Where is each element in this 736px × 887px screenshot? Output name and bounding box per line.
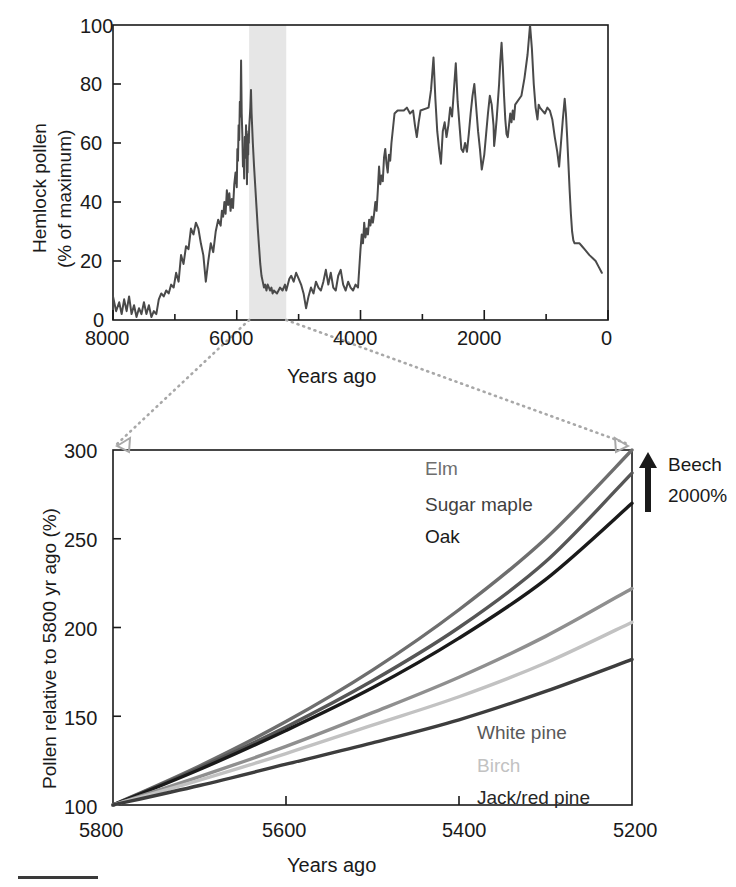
beech-annotation-value: 2000% — [668, 486, 727, 505]
series-label-jack-red-pine: Jack/red pine — [477, 788, 590, 807]
bottom-ytick-100: 100 — [64, 797, 97, 817]
series-line-oak — [113, 503, 632, 805]
top-xtick-0: 0 — [601, 328, 612, 348]
top-ytick-40: 40 — [80, 192, 102, 212]
series-label-birch: Birch — [477, 756, 520, 775]
pollen-figure: 100 80 60 40 20 0 8000 6000 4000 2000 0 … — [0, 0, 736, 887]
top-ytick-80: 80 — [80, 74, 102, 94]
bottom-xtick-5200: 5200 — [613, 820, 658, 840]
series-label-elm: Elm — [425, 459, 458, 478]
bottom-ytick-250: 250 — [64, 530, 97, 550]
beech-annotation-label: Beech — [668, 455, 722, 474]
bottom-ytick-200: 200 — [64, 619, 97, 639]
up-arrow-icon-head — [639, 452, 657, 468]
bottom-xtick-5600: 5600 — [262, 820, 307, 840]
series-label-white-pine: White pine — [477, 723, 567, 742]
top-yaxis-title-line1: Hemlock pollen — [30, 123, 49, 253]
bottom-ytick-300: 300 — [64, 441, 97, 461]
bottom-xtick-5800: 5800 — [79, 820, 124, 840]
bottom-plot-frame — [113, 450, 632, 805]
top-ytick-20: 20 — [80, 251, 102, 271]
series-line-sugar-maple — [113, 473, 632, 805]
bottom-xtick-5400: 5400 — [442, 820, 487, 840]
top-yaxis-title-line2: (% of maximum) — [55, 130, 74, 268]
series-line-elm — [113, 450, 632, 805]
bottom-ytick-150: 150 — [64, 708, 97, 728]
top-ytick-100: 100 — [80, 16, 113, 36]
top-xtick-4000: 4000 — [333, 328, 378, 348]
top-xtick-6000: 6000 — [209, 328, 254, 348]
top-ytick-60: 60 — [80, 133, 102, 153]
caption-divider-rule — [18, 876, 98, 879]
series-label-sugar-maple: Sugar maple — [425, 495, 533, 514]
bottom-yaxis-title: Pollen relative to 5800 yr ago (%) — [40, 508, 59, 789]
top-xtick-8000: 8000 — [85, 328, 130, 348]
bottom-xaxis-title: Years ago — [287, 855, 376, 875]
top-xaxis-title: Years ago — [287, 366, 376, 386]
top-xtick-2000: 2000 — [457, 328, 502, 348]
series-label-oak: Oak — [425, 527, 460, 546]
hemlock-pollen-line — [113, 25, 602, 317]
chart-canvas — [0, 0, 736, 887]
